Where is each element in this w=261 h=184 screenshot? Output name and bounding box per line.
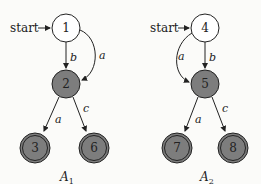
node-1: 1 (52, 14, 80, 42)
svg-text:b: b (209, 51, 216, 64)
svg-text:c: c (222, 102, 228, 115)
node-4: 4 (191, 14, 219, 42)
svg-text:2: 2 (62, 77, 70, 91)
svg-text:b: b (70, 51, 77, 64)
svg-text:7: 7 (173, 141, 181, 155)
svg-text:3: 3 (31, 141, 39, 155)
svg-text:c: c (83, 102, 89, 115)
node-3: 3 (20, 133, 50, 163)
edge-1-2-a (80, 30, 95, 80)
node-6: 6 (79, 133, 109, 163)
svg-text:5: 5 (201, 77, 209, 91)
automaton-a1: start 1 b a 2 a c 3 6 A1 (10, 14, 109, 184)
node-2: 2 (52, 70, 80, 98)
automaton-a2: start 4 b a 5 a c 7 8 A2 (150, 14, 248, 184)
svg-text:6: 6 (90, 141, 98, 155)
node-7: 7 (162, 133, 192, 163)
svg-text:a: a (195, 113, 202, 126)
svg-text:a: a (55, 113, 62, 126)
svg-text:8: 8 (229, 141, 237, 155)
node-5: 5 (191, 70, 219, 98)
automata-diagram: start 1 b a 2 a c 3 6 A1 st (0, 0, 261, 184)
svg-text:4: 4 (201, 21, 209, 35)
svg-text:a: a (178, 50, 185, 63)
caption-a1: A1 (59, 170, 74, 184)
caption-a2: A2 (199, 170, 214, 184)
svg-text:1: 1 (62, 21, 70, 35)
start-label: start (150, 21, 179, 35)
node-8: 8 (218, 133, 248, 163)
svg-text:a: a (99, 49, 106, 62)
start-label: start (10, 21, 39, 35)
